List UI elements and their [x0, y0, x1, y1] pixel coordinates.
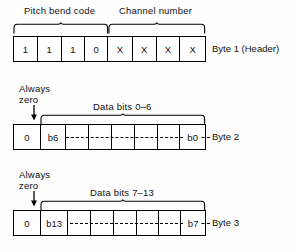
byte1-row: 1 1 1 0 X X X X	[13, 36, 206, 62]
byte1-cell-0-value: 1	[22, 44, 29, 55]
byte1-cell-1-value: 1	[45, 44, 52, 55]
byte2-cell-0: 0	[14, 125, 41, 149]
byte1-cell-2-value: 1	[69, 44, 76, 55]
caption-data-bits-0-6: Data bits 0–6	[93, 101, 152, 112]
byte1-cell-6-value: X	[164, 44, 172, 55]
byte1-cell-4: X	[108, 37, 133, 61]
byte1-cell-5: X	[133, 37, 157, 61]
byte3-cell-1-value: b13	[45, 218, 63, 229]
brace-channel-number	[108, 22, 206, 34]
byte1-cell-4-value: X	[116, 44, 124, 55]
byte3-cell-0-value: 0	[23, 218, 30, 229]
byte1-cell-1: 1	[38, 37, 62, 61]
caption-pitch-bend-code: Pitch bend code	[24, 5, 95, 16]
byte3-side-label: Byte 3	[212, 217, 239, 228]
byte1-cell-7-value: X	[188, 44, 196, 55]
byte2-cell-0-value: 0	[23, 132, 30, 143]
byte1-cell-3: 0	[85, 37, 108, 61]
brace-pitch-bend-code	[13, 22, 109, 34]
byte3-cell-1: b13	[41, 211, 69, 235]
byte2-cell-1: b6	[41, 125, 67, 149]
byte3-always-zero-line1: Always	[19, 169, 50, 180]
byte3-always-zero-line2: zero	[19, 180, 38, 191]
byte2-always-zero-arrow-icon	[27, 105, 41, 121]
byte2-side-label: Byte 2	[212, 131, 239, 142]
byte2-always-zero-line1: Always	[19, 83, 50, 94]
byte1-side-label: Byte 1 (Header)	[212, 43, 279, 54]
byte2-ellipsis-dashline	[66, 137, 183, 138]
byte3-cell-7-value: b7	[187, 218, 200, 229]
byte2-cell-7-value: b0	[186, 132, 199, 143]
byte3-ellipsis-dashline	[70, 223, 183, 224]
caption-data-bits-7-13: Data bits 7–13	[90, 187, 154, 198]
byte1-cell-5-value: X	[140, 44, 148, 55]
byte1-cell-0: 1	[14, 37, 38, 61]
caption-channel-number: Channel number	[119, 5, 192, 16]
byte3-always-zero-arrow-icon	[27, 191, 41, 207]
byte1-cell-3-value: 0	[92, 44, 99, 55]
byte2-cell-1-value: b6	[47, 132, 60, 143]
byte2-always-zero-line2: zero	[19, 94, 38, 105]
midi-pitch-bend-diagram: Pitch bend code Channel number 1 1 1 0 X…	[0, 0, 296, 252]
byte3-cell-0: 0	[14, 211, 41, 235]
byte1-cell-2: 1	[62, 37, 86, 61]
byte1-cell-6: X	[157, 37, 181, 61]
byte1-cell-7: X	[180, 37, 205, 61]
